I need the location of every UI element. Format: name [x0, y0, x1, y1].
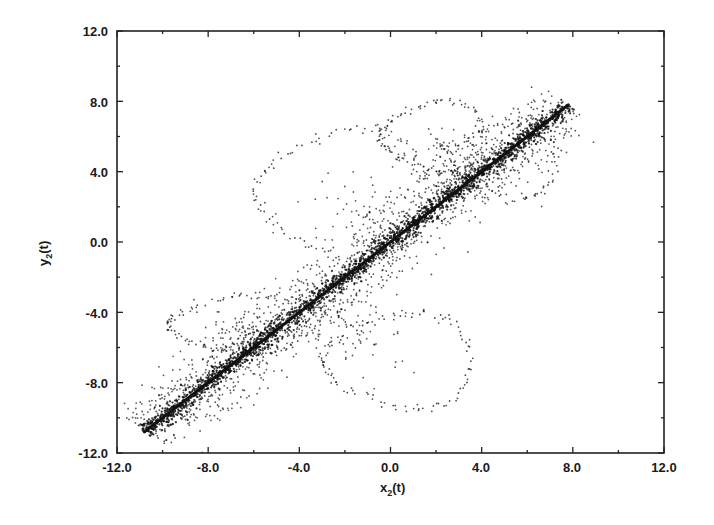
x-axis-title-tail: (t) — [392, 480, 405, 495]
y-tick-label: -12.0 — [78, 446, 108, 461]
x-tick-label: -8.0 — [197, 460, 219, 475]
x-tick-label: 12.0 — [651, 460, 676, 475]
y-tick-label: 4.0 — [90, 165, 108, 180]
y-axis-title: y2(t) — [36, 241, 54, 266]
y-tick-label: -8.0 — [86, 376, 108, 391]
x-tick-label: 8.0 — [563, 460, 581, 475]
y-tick-label: 12.0 — [83, 24, 108, 39]
y-axis-title-tail: (t) — [36, 241, 51, 254]
y-axis-tick-labels: 12.0 8.0 4.0 0.0 -4.0 -8.0 -12.0 — [78, 24, 108, 461]
scatter-points — [124, 86, 595, 453]
scatter-chart: 12.0 8.0 4.0 0.0 -4.0 -8.0 -12.0 -12.0 -… — [0, 0, 714, 525]
y-tick-label: 8.0 — [90, 95, 108, 110]
x-axis-tick-labels: -12.0 -8.0 -4.0 0.0 4.0 8.0 12.0 — [102, 460, 676, 475]
x-tick-label: 4.0 — [472, 460, 490, 475]
x-tick-label: 0.0 — [381, 460, 399, 475]
y-tick-label: 0.0 — [90, 235, 108, 250]
x-tick-label: -12.0 — [102, 460, 132, 475]
x-axis-title: x2(t) — [380, 480, 405, 498]
y-tick-label: -4.0 — [86, 306, 108, 321]
x-tick-label: -4.0 — [288, 460, 310, 475]
